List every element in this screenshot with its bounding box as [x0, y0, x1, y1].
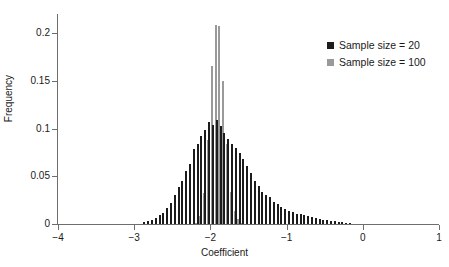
bar	[181, 181, 183, 224]
y-tick-mark	[52, 176, 57, 177]
bar	[307, 216, 309, 224]
bar	[330, 221, 332, 224]
bar	[315, 218, 317, 224]
x-tick-label: −1	[281, 232, 292, 243]
x-tick-label: −3	[128, 232, 139, 243]
bar	[300, 214, 302, 224]
bar	[197, 144, 199, 224]
y-tick-label: 0	[44, 219, 50, 229]
chart-legend: Sample size = 20 Sample size = 100	[327, 38, 426, 72]
y-tick-label: 0.2	[36, 28, 50, 38]
x-axis-label: Coefficient	[0, 247, 449, 258]
bar	[341, 222, 343, 224]
y-tick-label: 0.1	[36, 124, 50, 134]
bar	[143, 222, 145, 224]
bar	[265, 195, 267, 224]
x-tick-mark	[363, 225, 364, 230]
bar	[258, 186, 260, 224]
bar	[296, 214, 298, 225]
bar	[174, 195, 176, 224]
y-tick-mark	[52, 33, 57, 34]
bar	[155, 218, 157, 224]
bar	[284, 209, 286, 224]
bar	[242, 159, 244, 224]
x-tick-mark	[134, 225, 135, 230]
bar	[322, 220, 324, 224]
bar	[261, 192, 263, 224]
bar	[288, 211, 290, 224]
y-tick-label: 0.05	[31, 171, 50, 181]
y-tick-mark	[52, 129, 57, 130]
x-tick-label: −4	[52, 232, 63, 243]
bar	[166, 208, 168, 224]
x-tick-label: 1	[436, 232, 442, 243]
legend-swatch-gray-icon	[327, 59, 334, 66]
histogram-figure: Frequency 00.050.10.150.2 −4−3−2−101 Coe…	[0, 0, 449, 267]
bar	[189, 164, 191, 224]
bar	[193, 149, 195, 224]
bar	[185, 171, 187, 224]
bar	[269, 197, 271, 224]
x-tick-label: −2	[205, 232, 216, 243]
bar	[311, 217, 313, 224]
y-tick-mark	[52, 224, 57, 225]
x-tick-mark	[287, 225, 288, 230]
x-tick-label: 0	[360, 232, 366, 243]
bar	[159, 215, 161, 224]
y-axis-label-wrapper: Frequency	[0, 88, 59, 106]
y-tick-mark	[52, 81, 57, 82]
bar	[280, 207, 282, 224]
legend-label-sample-100: Sample size = 100	[339, 57, 426, 68]
bar	[338, 222, 340, 224]
y-axis-label: Frequency	[4, 75, 15, 122]
legend-item-sample-20: Sample size = 20	[327, 38, 426, 53]
bar	[349, 223, 351, 224]
bar	[345, 223, 347, 224]
bar	[147, 221, 149, 224]
bar	[250, 173, 252, 224]
bar	[239, 153, 241, 224]
bar	[170, 203, 172, 224]
x-axis-line	[57, 224, 439, 225]
legend-item-sample-100: Sample size = 100	[327, 55, 426, 70]
bar	[273, 202, 275, 224]
bar	[235, 148, 237, 224]
bar	[319, 219, 321, 224]
bar	[277, 204, 279, 224]
legend-swatch-black-icon	[327, 42, 334, 49]
bar	[292, 212, 294, 224]
bar	[246, 166, 248, 224]
x-tick-mark	[439, 225, 440, 230]
x-tick-mark	[210, 225, 211, 230]
bar	[334, 221, 336, 224]
x-tick-mark	[58, 225, 59, 230]
legend-label-sample-20: Sample size = 20	[339, 40, 420, 51]
bar	[151, 220, 153, 224]
bar	[303, 215, 305, 224]
y-tick-label: 0.15	[31, 76, 50, 86]
bar	[254, 181, 256, 224]
bar	[178, 187, 180, 224]
bar	[162, 213, 164, 224]
bar	[326, 220, 328, 224]
